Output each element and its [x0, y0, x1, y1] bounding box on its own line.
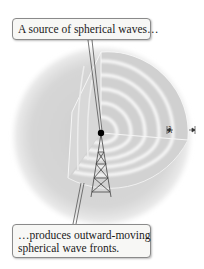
callout-wavefronts: …produces outward-moving spherical wave …	[12, 224, 151, 258]
source-dot	[98, 130, 104, 136]
callout-wavefronts-line2: spherical wave fronts.	[18, 242, 145, 255]
callout-source: A source of spherical waves…	[12, 18, 151, 40]
callout-source-text: A source of spherical waves…	[18, 23, 159, 35]
wavelength-label: λ	[168, 124, 172, 135]
callout-wavefronts-line1: …produces outward-moving	[18, 229, 145, 242]
